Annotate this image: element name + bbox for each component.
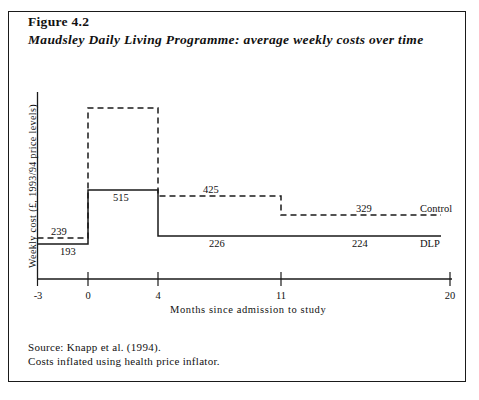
figure-caption: Figure 4.2 Maudsley Daily Living Program… (28, 14, 438, 48)
source-note: Source: Knapp et al. (1994). Costs infla… (28, 341, 428, 368)
figure-title: Maudsley Daily Living Programme: average… (28, 32, 438, 48)
source-line-1: Source: Knapp et al. (1994). (28, 341, 428, 355)
figure-number: Figure 4.2 (28, 14, 438, 30)
figure-frame (8, 11, 466, 382)
source-line-2: Costs inflated using health price inflat… (28, 355, 428, 369)
